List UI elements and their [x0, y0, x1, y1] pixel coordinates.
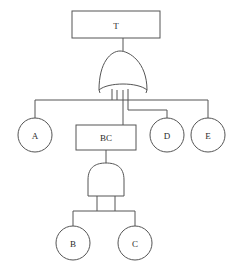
or-gate-tip-right: [146, 90, 147, 93]
or-gate-tip-left: [99, 90, 100, 93]
and-gate: [88, 163, 124, 196]
basic-event-c-label: C: [132, 239, 138, 249]
basic-event-a-label: A: [32, 131, 39, 141]
fault-tree-diagram: T A BC D E B C: [0, 0, 244, 279]
basic-event-e-label: E: [205, 131, 211, 141]
top-event-label: T: [113, 21, 119, 31]
basic-event-b-label: B: [70, 239, 76, 249]
or-gate: [99, 51, 147, 90]
diagram-canvas: T A BC D E B C: [0, 0, 244, 279]
intermediate-event-label: BC: [100, 133, 112, 143]
basic-event-d-label: D: [164, 131, 171, 141]
